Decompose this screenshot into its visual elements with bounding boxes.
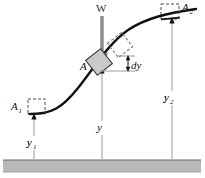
ground-body: [3, 160, 201, 172]
block-a1-base: [28, 113, 45, 114]
label-y2-top: y: [163, 91, 169, 103]
ground-datum: [3, 160, 201, 172]
block-a1-label-subscript: 1: [19, 107, 23, 115]
block-a-label: A: [79, 60, 87, 72]
label-y-top: y: [96, 121, 102, 133]
diagram-canvas: A 1 W A dy: [0, 0, 205, 178]
label-y2-subscript-top: 2: [170, 98, 174, 106]
dy-label: dy: [131, 59, 142, 71]
block-a1-label: A: [10, 100, 18, 112]
block-a2-label: A: [181, 1, 189, 13]
block-a2-label-subscript: 2: [190, 8, 194, 16]
weight-label: W: [96, 2, 107, 14]
label-y1-top: y: [26, 136, 32, 148]
label-y1-subscript-top: 1: [33, 143, 37, 151]
physics-diagram-figure: A 1 W A dy: [0, 0, 205, 178]
